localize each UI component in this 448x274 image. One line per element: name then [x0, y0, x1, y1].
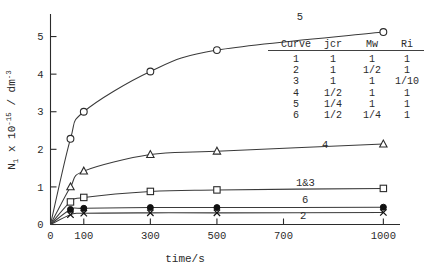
chart-canvas: 012345 01003005007001000 541&362 time/s …	[0, 0, 448, 274]
marker-4	[380, 140, 387, 147]
marker-5	[380, 29, 387, 36]
x-axis-label: time/s	[165, 253, 205, 265]
marker-5	[214, 47, 221, 54]
legend-cell: 1	[330, 54, 336, 65]
legend-header-jcr: jcr	[324, 39, 342, 50]
legend-cell: 1	[404, 110, 410, 121]
x-tick-label: 100	[74, 230, 93, 242]
marker-5	[147, 68, 154, 75]
legend-cell: 1	[369, 76, 375, 87]
y-axis-mult-exp: -15	[5, 112, 13, 126]
legend-cell: 4	[293, 88, 299, 99]
legend-cell: 1	[330, 65, 336, 76]
legend-cell: 1/2	[324, 88, 342, 99]
legend-cell: 1	[369, 99, 375, 110]
legend-cell: 6	[293, 110, 299, 121]
legend-cell: 1	[293, 54, 299, 65]
marker-6	[147, 205, 153, 211]
legend-cell: 1/4	[363, 110, 381, 121]
marker-4	[67, 183, 74, 190]
y-axis-mult: x 10	[6, 126, 18, 159]
y-tick-label: 0	[37, 219, 43, 231]
legend-body-rows: 1111211/213111/1041/21151/41161/21/41	[293, 54, 419, 121]
y-axis-label: N1 x 10-15 / dm-3	[5, 70, 20, 170]
x-tick-label: 700	[274, 230, 293, 242]
x-tick-group	[84, 219, 384, 225]
legend-cell: 1	[369, 54, 375, 65]
x-tick-label: 0	[47, 230, 53, 242]
legend-cell: 5	[293, 99, 299, 110]
marker-1&3	[380, 185, 386, 191]
axes-group	[51, 14, 401, 225]
curve-label-1&3: 1&3	[296, 177, 315, 189]
curve-label-2: 2	[300, 210, 306, 222]
y-tick-label: 3	[37, 106, 43, 118]
legend-cell: 1	[404, 54, 410, 65]
legend-cell: 1	[404, 99, 410, 110]
marker-5	[80, 108, 87, 115]
legend-cell: 1	[369, 88, 375, 99]
legend-cell: 1/2	[324, 110, 342, 121]
marker-5	[67, 135, 74, 142]
marker-6	[214, 205, 220, 211]
y-axis-unit-exp: -3	[5, 70, 13, 80]
figure-container: 012345 01003005007001000 541&362 time/s …	[0, 0, 448, 274]
legend-header-row: CurvejcrMwRi	[281, 39, 413, 50]
legend-cell: 1	[404, 65, 410, 76]
legend-cell: 2	[293, 65, 299, 76]
y-tick-label: 5	[37, 31, 43, 43]
x-tick-label: 500	[207, 230, 226, 242]
y-axis-unit: / dm	[6, 79, 18, 112]
legend-cell: 3	[293, 76, 299, 87]
y-tick-labels: 012345	[37, 31, 43, 231]
marker-1&3	[214, 187, 220, 193]
legend-cell: 1	[404, 88, 410, 99]
legend-header-ri: Ri	[401, 39, 413, 50]
x-tick-labels: 01003005007001000	[47, 230, 396, 242]
legend-table: CurvejcrMwRi 1111211/213111/1041/21151/4…	[268, 39, 424, 121]
legend-cell: 1/2	[363, 65, 381, 76]
y-tick-label: 1	[37, 182, 43, 194]
y-tick-group	[51, 37, 57, 225]
x-tick-label: 300	[141, 230, 160, 242]
marker-1&3	[81, 194, 87, 200]
curve-label-5: 5	[297, 11, 303, 23]
marker-6	[380, 204, 386, 210]
x-tick-label: 1000	[371, 230, 396, 242]
marker-1&3	[147, 188, 153, 194]
legend-header-curve: Curve	[281, 39, 311, 50]
curve-label-4: 4	[322, 139, 328, 151]
y-tick-label: 4	[37, 69, 43, 81]
legend-cell: 1	[330, 76, 336, 87]
curve-label-6: 6	[302, 194, 308, 206]
marker-1&3	[67, 199, 73, 205]
legend-cell: 1/10	[395, 76, 419, 87]
legend-cell: 1/4	[324, 99, 342, 110]
legend-header-mw: Mw	[366, 39, 378, 50]
marker-6	[67, 206, 73, 212]
y-tick-label: 2	[37, 144, 43, 156]
y-axis-symbol: N	[6, 163, 18, 170]
